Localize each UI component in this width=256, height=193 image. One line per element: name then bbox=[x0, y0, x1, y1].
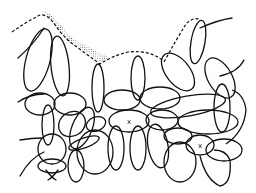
cell bbox=[187, 19, 208, 65]
cell bbox=[200, 150, 230, 186]
marker-x: x bbox=[127, 118, 131, 126]
cell bbox=[140, 87, 180, 109]
cell bbox=[131, 56, 145, 100]
arc-bottom-left bbox=[46, 170, 58, 180]
arc-left-mid2 bbox=[20, 138, 42, 140]
cell bbox=[42, 105, 54, 145]
cell bbox=[155, 47, 201, 96]
cell bbox=[84, 114, 108, 134]
tissue-diagram: x x bbox=[0, 0, 256, 193]
cell bbox=[104, 90, 140, 110]
cell bbox=[92, 64, 104, 112]
upper-boundary-right bbox=[164, 19, 200, 62]
cell bbox=[48, 35, 72, 97]
cell bbox=[108, 126, 124, 170]
cell bbox=[38, 159, 66, 173]
arc-left-low bbox=[20, 152, 44, 176]
cell bbox=[164, 142, 196, 182]
cell bbox=[130, 126, 146, 170]
marker-x: x bbox=[198, 142, 202, 150]
cell bbox=[25, 93, 55, 115]
